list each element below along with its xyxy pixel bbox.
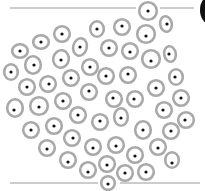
cell-nucleus [52,124,55,127]
cell-nucleus [29,128,32,131]
cell-diagram [0,0,205,191]
cell [138,164,154,180]
cell-nucleus [165,22,168,25]
cell-nucleus [179,96,182,99]
cell-nucleus [39,40,42,43]
cell [60,152,76,168]
cell-nucleus [69,76,72,79]
cell-nucleus [9,70,12,73]
cell [30,97,48,115]
cell-nucleus [167,52,170,55]
cell [142,50,160,68]
cell-nucleus [71,136,74,139]
cell-nucleus [132,97,135,100]
cell [63,70,79,86]
cell-nucleus [183,118,186,121]
cell [139,2,157,20]
cell-nucleus [111,96,114,99]
cell [127,147,143,163]
cell-nucleus [87,89,90,92]
cell [163,123,179,139]
cell [64,130,80,146]
cell [52,49,70,69]
cell [33,35,49,49]
cell [165,152,179,168]
cell-nucleus [156,146,159,149]
cell [70,107,86,123]
cell-nucleus [170,161,173,164]
cell-nucleus [66,160,69,163]
cell-nucleus [61,99,64,102]
cell-wall [165,152,179,168]
cell-nucleus [104,74,107,77]
cell-nucleus [144,170,147,173]
cell [81,84,97,100]
cell-wall [7,99,23,117]
cell-nucleus [114,144,117,147]
cell-nucleus [106,182,109,185]
cell [23,122,39,138]
cell-nucleus [59,58,62,61]
cell [39,140,55,156]
cell [40,76,56,92]
corner-blob-shape [200,0,205,24]
corner-shape [200,0,205,24]
cell-nucleus [154,86,157,89]
cell [178,112,194,128]
cell [55,93,71,109]
cell-wall [137,25,155,43]
cells-group [4,2,194,190]
cell [92,114,108,130]
cell-nucleus [119,116,122,119]
cell-nucleus [146,9,149,12]
cell [117,165,133,181]
cell [71,37,89,58]
cell [101,40,117,56]
cell [173,90,189,106]
cell-nucleus [128,50,131,53]
cell-nucleus [45,147,48,150]
cell [150,139,166,155]
cell [7,99,23,117]
cell-nucleus [18,49,21,52]
cell [98,68,114,84]
cell [80,162,96,178]
cell-nucleus [126,72,129,75]
cell [90,21,104,37]
cell [19,79,35,95]
cell [99,156,115,172]
cell [106,91,122,107]
cell [46,118,62,134]
cell-nucleus [60,32,63,35]
cell [82,59,98,75]
cell-diagram-canvas [0,0,205,191]
cell-nucleus [133,154,136,157]
cell-nucleus [98,119,101,122]
cell-wall [60,152,76,168]
cell-nucleus [91,146,94,149]
cell [135,121,151,139]
cell-nucleus [173,75,176,78]
cell [156,102,172,118]
cell-wall [80,162,96,178]
cell [114,108,128,126]
cell-nucleus [123,171,126,174]
cell-nucleus [107,46,110,49]
cell-nucleus [161,108,164,111]
cell-nucleus [12,108,15,111]
cell-nucleus [32,63,35,66]
cell [54,26,70,42]
cell-nucleus [149,59,152,62]
cell-nucleus [78,45,81,48]
cell [169,69,183,85]
cell-nucleus [169,129,172,132]
cell-nucleus [120,24,123,27]
cell [127,91,143,107]
cell-nucleus [95,27,98,30]
cell-nucleus [25,85,28,88]
cell-wall [142,50,160,68]
cell [85,139,101,155]
cell [108,137,124,153]
cell [114,19,130,35]
cell [4,64,18,80]
